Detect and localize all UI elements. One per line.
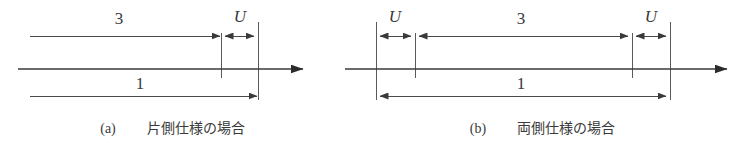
panel-a-caption-marker: (a) (100, 121, 116, 137)
panel-b-caption-marker: (b) (470, 121, 487, 137)
panel-b-label-u-left: U (389, 7, 403, 26)
panel-b-label-u-right: U (645, 7, 659, 26)
panel-a-label-u: U (234, 7, 248, 26)
panel-a-label-1: 1 (136, 74, 145, 93)
panel-b-group: U 3 U 1 (b) 両側仕様の場合 (345, 7, 727, 137)
panel-b-caption-text: 両側仕様の場合 (517, 121, 615, 136)
panel-a-caption-text: 片側仕様の場合 (147, 121, 245, 136)
panel-a-label-3: 3 (115, 9, 124, 28)
dimension-diagram-canvas: 3 U 1 (a) 片側仕様の場合 U (0, 0, 745, 143)
panel-a-group: 3 U 1 (a) 片側仕様の場合 (18, 7, 303, 137)
figure-root: 3 U 1 (a) 片側仕様の場合 U (0, 0, 745, 143)
panel-b-label-3: 3 (517, 9, 526, 28)
panel-b-label-1: 1 (517, 74, 526, 93)
